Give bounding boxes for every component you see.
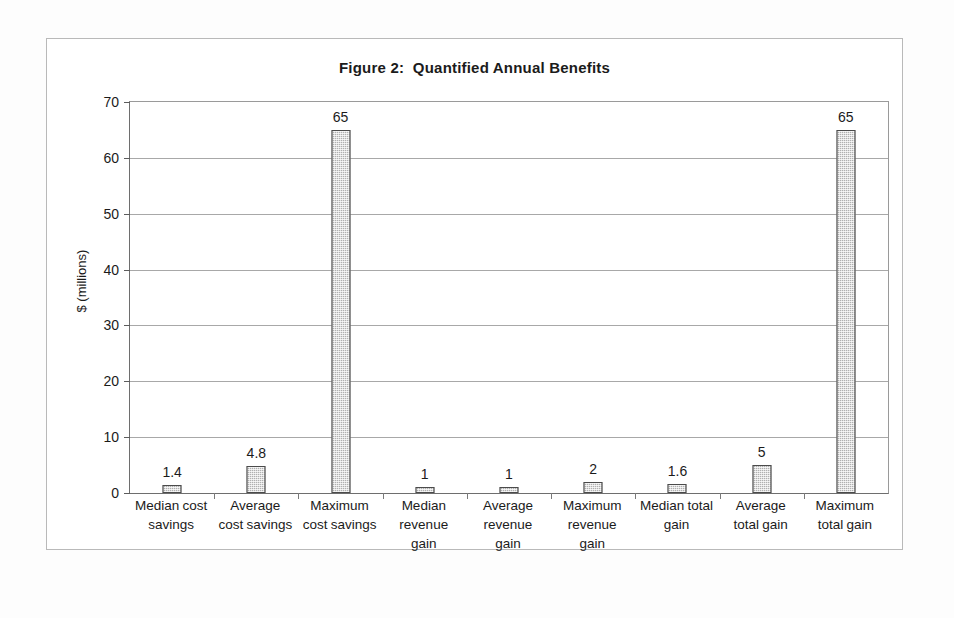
bar-slot: 1.4 xyxy=(130,102,214,493)
bar-value-label: 65 xyxy=(838,109,854,125)
bar-slot: 1 xyxy=(383,102,467,493)
x-axis-category-label-line: Median total xyxy=(634,496,718,515)
chart-title: Figure 2: Quantified Annual Benefits xyxy=(47,59,902,76)
y-axis-tick-label: 40 xyxy=(103,262,119,278)
bar-slot: 1.6 xyxy=(635,102,719,493)
x-axis-category-label: Averagerevenuegain xyxy=(466,496,550,553)
bar-value-label: 4.8 xyxy=(247,445,266,461)
x-axis-category-label-line: savings xyxy=(129,515,213,534)
bar-value-label: 1 xyxy=(505,466,513,482)
bar-slot: 5 xyxy=(720,102,804,493)
bar[interactable] xyxy=(499,487,518,493)
bar[interactable] xyxy=(584,482,603,493)
x-axis-category-label: Medianrevenuegain xyxy=(382,496,466,553)
x-axis-category-label-line: Average xyxy=(719,496,803,515)
y-axis-tick-label: 20 xyxy=(103,373,119,389)
bar-value-label: 1 xyxy=(421,466,429,482)
y-axis-tick xyxy=(124,493,130,494)
x-axis-category-label-line: Maximum xyxy=(297,496,381,515)
bar-value-label: 2 xyxy=(589,461,597,477)
bar-value-label: 1.6 xyxy=(668,463,687,479)
y-axis-tick-label: 60 xyxy=(103,150,119,166)
x-axis-category-label: Maximumtotal gain xyxy=(803,496,887,534)
plot-area: 010203040506070 1.44.8651121.6565 xyxy=(129,101,889,494)
y-axis-tick-label: 70 xyxy=(103,94,119,110)
bar-slot: 4.8 xyxy=(214,102,298,493)
x-axis-category-label-line: revenue xyxy=(550,515,634,534)
y-axis-title: $ (millions) xyxy=(74,297,89,313)
bar[interactable] xyxy=(752,465,771,493)
bar[interactable] xyxy=(415,487,434,493)
x-axis-category-label-line: Median xyxy=(382,496,466,515)
x-axis-category-label-line: gain xyxy=(634,515,718,534)
x-axis-category-label: Median totalgain xyxy=(634,496,718,534)
bar[interactable] xyxy=(668,484,687,493)
y-axis-tick-label: 0 xyxy=(111,485,119,501)
x-axis-category-label-line: gain xyxy=(550,534,634,553)
x-axis-category-label-line: revenue xyxy=(382,515,466,534)
category-axis-labels: Median costsavingsAveragecost savingsMax… xyxy=(129,496,889,552)
x-axis-category-label-line: total gain xyxy=(719,515,803,534)
x-axis-category-label-line: revenue xyxy=(466,515,550,534)
y-axis-tick-label: 30 xyxy=(103,317,119,333)
x-axis-category-label-line: Median cost xyxy=(129,496,213,515)
bar-value-label: 1.4 xyxy=(162,464,181,480)
x-axis-category-label-line: cost savings xyxy=(213,515,297,534)
y-axis-tick-label: 10 xyxy=(103,429,119,445)
x-axis-category-label-line: Maximum xyxy=(550,496,634,515)
bar-slot: 1 xyxy=(467,102,551,493)
bar-value-label: 5 xyxy=(758,444,766,460)
x-axis-category-label-line: Maximum xyxy=(803,496,887,515)
bar-slot: 65 xyxy=(804,102,888,493)
x-axis-category-label: Averagecost savings xyxy=(213,496,297,534)
x-axis-category-label-line: Average xyxy=(213,496,297,515)
bar-slot: 65 xyxy=(298,102,382,493)
bar[interactable] xyxy=(836,130,855,493)
bar[interactable] xyxy=(163,485,182,493)
x-axis-category-label: Maximumcost savings xyxy=(297,496,381,534)
x-axis-category-label-line: cost savings xyxy=(297,515,381,534)
bar-slot: 2 xyxy=(551,102,635,493)
bar[interactable] xyxy=(331,130,350,493)
x-axis-category-label: Maximumrevenuegain xyxy=(550,496,634,553)
x-axis-category-label-line: Average xyxy=(466,496,550,515)
bar[interactable] xyxy=(247,466,266,493)
x-axis-category-label: Averagetotal gain xyxy=(719,496,803,534)
chart-frame: Figure 2: Quantified Annual Benefits $ (… xyxy=(46,38,903,550)
y-axis-tick-label: 50 xyxy=(103,206,119,222)
bar-value-label: 65 xyxy=(333,109,349,125)
chart-page: Figure 2: Quantified Annual Benefits $ (… xyxy=(0,0,954,618)
x-axis-category-label: Median costsavings xyxy=(129,496,213,534)
x-axis-category-label-line: gain xyxy=(382,534,466,553)
x-axis-category-label-line: total gain xyxy=(803,515,887,534)
x-axis-category-label-line: gain xyxy=(466,534,550,553)
